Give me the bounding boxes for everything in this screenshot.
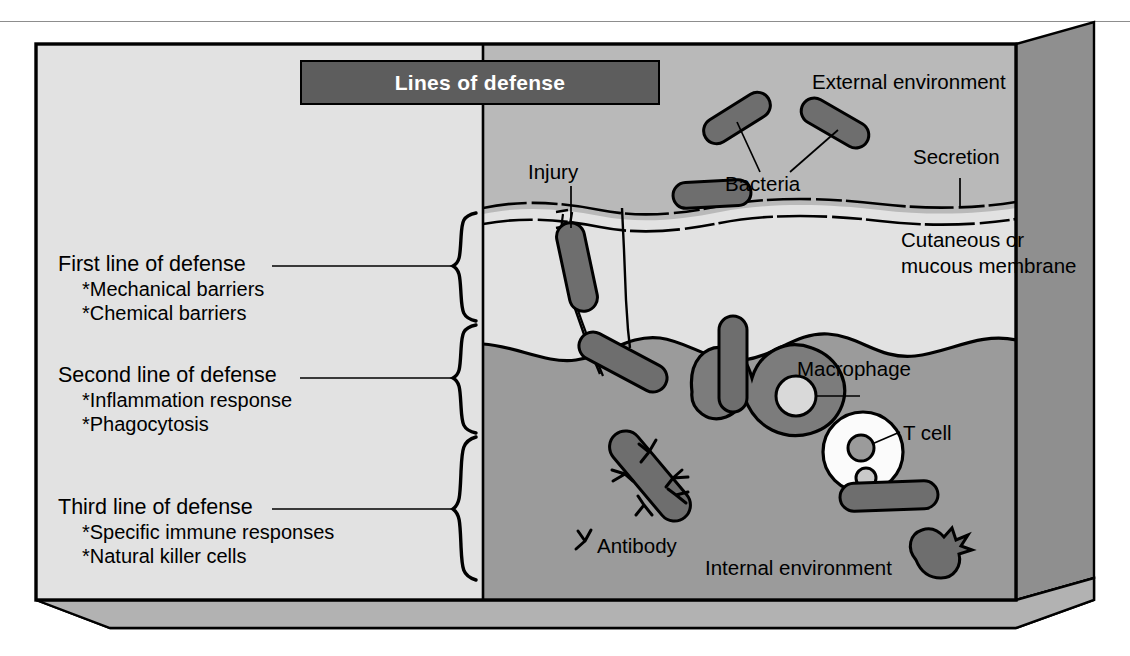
second-line-item-0: *Inflammation response xyxy=(82,389,292,413)
figure-canvas: Lines of defense First line of defense *… xyxy=(0,0,1130,656)
third-line-heading: Third line of defense xyxy=(58,495,253,520)
third-line-item-0: *Specific immune responses xyxy=(82,521,334,545)
second-line-item-1: *Phagocytosis xyxy=(82,413,209,437)
figure-title-bar: Lines of defense xyxy=(300,60,660,105)
label-antibody: Antibody xyxy=(597,534,677,558)
label-secretion: Secretion xyxy=(913,145,1000,169)
label-t-cell: T cell xyxy=(903,421,952,445)
label-internal-environment: Internal environment xyxy=(705,556,892,580)
label-bacteria: Bacteria xyxy=(725,172,800,196)
first-line-heading: First line of defense xyxy=(58,252,246,277)
figure-title: Lines of defense xyxy=(395,71,566,95)
slab-right-face xyxy=(1016,22,1094,600)
second-line-heading: Second line of defense xyxy=(58,363,277,388)
label-cutaneous-membrane-line1: Cutaneous or xyxy=(901,228,1024,252)
third-line-item-1: *Natural killer cells xyxy=(82,545,247,569)
tcell-target-bacterium xyxy=(840,480,939,511)
first-line-item-0: *Mechanical barriers xyxy=(82,278,264,302)
macrophage-nucleus xyxy=(776,376,816,416)
label-injury: Injury xyxy=(528,160,578,184)
first-line-item-1: *Chemical barriers xyxy=(82,302,247,326)
label-cutaneous-membrane-line2: mucous membrane xyxy=(901,254,1076,278)
label-external-environment: External environment xyxy=(812,70,1006,94)
tcell-nucleus xyxy=(848,435,874,461)
macrophage-engulfed-bacterium xyxy=(719,316,747,412)
label-macrophage: Macrophage xyxy=(797,357,911,381)
